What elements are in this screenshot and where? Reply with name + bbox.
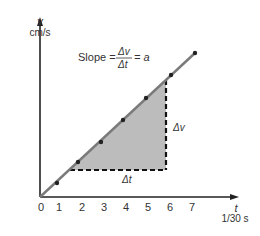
x-axis-unit: 1/30 s bbox=[221, 213, 248, 224]
delta-t-label: Δt bbox=[121, 174, 133, 185]
x-tick-labels: 0 1 2 3 4 5 6 7 bbox=[38, 201, 195, 213]
slope-numerator: Δv bbox=[117, 46, 131, 57]
x-axis-arrow-icon bbox=[230, 194, 239, 200]
svg-text:2: 2 bbox=[79, 201, 85, 213]
svg-text:7: 7 bbox=[189, 201, 195, 213]
slope-label: Slope = bbox=[78, 51, 116, 63]
svg-text:4: 4 bbox=[123, 201, 129, 213]
svg-text:0: 0 bbox=[38, 201, 44, 213]
slope-equals-a: = a bbox=[134, 51, 150, 63]
slope-denominator: Δt bbox=[117, 59, 129, 70]
svg-text:3: 3 bbox=[101, 201, 107, 213]
delta-v-label: Δv bbox=[172, 122, 186, 133]
y-axis-unit: cm/s bbox=[29, 27, 50, 38]
svg-text:5: 5 bbox=[145, 201, 151, 213]
y-axis-label: v bbox=[37, 15, 44, 27]
velocity-time-chart: v cm/s Slope = Δv Δt = a Δv Δt 0 1 2 3 4… bbox=[0, 0, 260, 236]
svg-text:1: 1 bbox=[56, 201, 62, 213]
svg-text:6: 6 bbox=[167, 201, 173, 213]
